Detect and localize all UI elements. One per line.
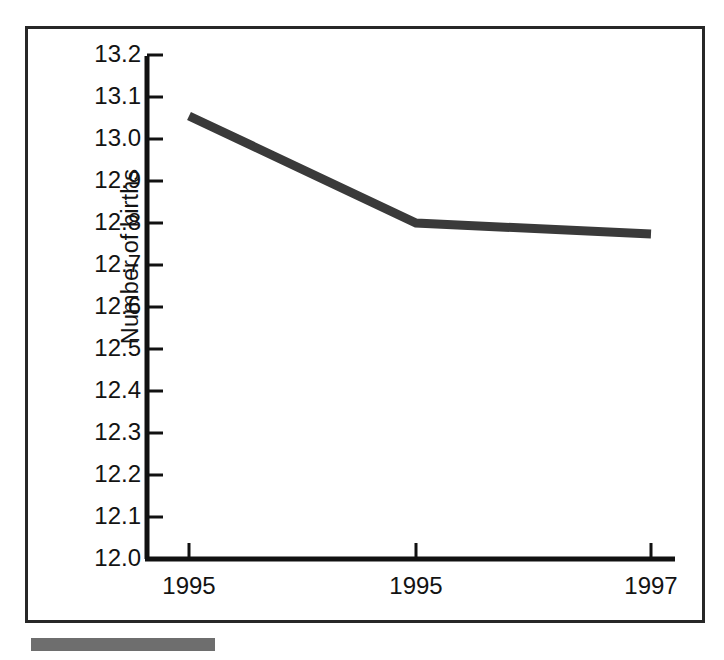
y-axis-title: Number of births bbox=[117, 142, 144, 372]
x-tick-label: 1997 bbox=[624, 574, 677, 598]
x-tick-label: 1995 bbox=[162, 574, 215, 598]
chart-frame: 12.0 12.1 12.2 12.3 12.4 12.5 12.6 12.7 … bbox=[25, 26, 705, 623]
plot-area: 12.0 12.1 12.2 12.3 12.4 12.5 12.6 12.7 … bbox=[28, 29, 702, 620]
redacted-caption-bar bbox=[31, 638, 215, 651]
x-tick-label: 1995 bbox=[389, 574, 442, 598]
figure-container: 12.0 12.1 12.2 12.3 12.4 12.5 12.6 12.7 … bbox=[0, 0, 724, 660]
